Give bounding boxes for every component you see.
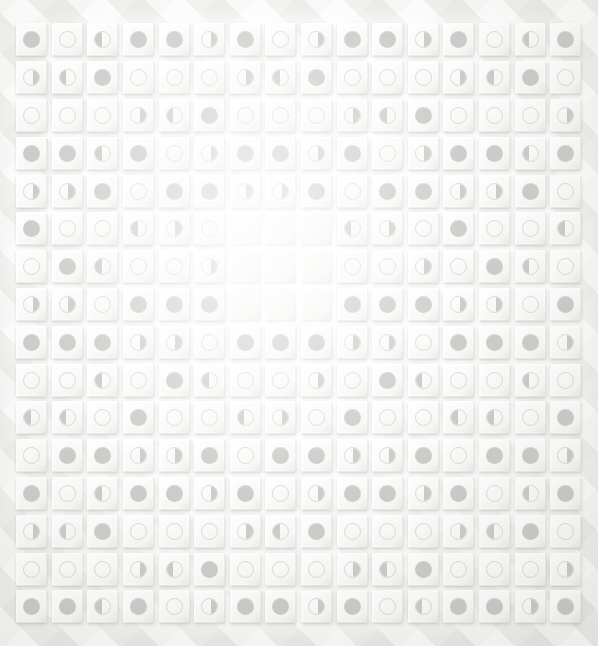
board-cell[interactable]	[512, 172, 548, 210]
board-cell-blank[interactable]	[299, 210, 335, 248]
board-cell[interactable]	[441, 172, 477, 210]
board-cell[interactable]	[85, 550, 121, 588]
board-cell[interactable]	[334, 512, 370, 550]
board-cell[interactable]	[406, 210, 442, 248]
board-cell[interactable]	[14, 323, 50, 361]
board-cell[interactable]	[406, 361, 442, 399]
board-cell[interactable]	[477, 248, 513, 286]
board-cell[interactable]	[512, 210, 548, 248]
board-cell[interactable]	[477, 323, 513, 361]
board-cell[interactable]	[299, 512, 335, 550]
board-cell[interactable]	[192, 361, 228, 399]
board-cell[interactable]	[156, 286, 192, 324]
board-cell[interactable]	[441, 21, 477, 59]
board-cell[interactable]	[156, 248, 192, 286]
board-cell[interactable]	[192, 210, 228, 248]
board-cell[interactable]	[441, 399, 477, 437]
board-cell[interactable]	[512, 475, 548, 513]
board-cell[interactable]	[14, 361, 50, 399]
board-cell[interactable]	[228, 97, 264, 135]
board-cell[interactable]	[50, 361, 86, 399]
board-cell[interactable]	[14, 97, 50, 135]
board-cell[interactable]	[441, 550, 477, 588]
board-cell[interactable]	[192, 286, 228, 324]
board-cell[interactable]	[334, 21, 370, 59]
board-cell[interactable]	[477, 97, 513, 135]
board-cell[interactable]	[14, 286, 50, 324]
board-cell[interactable]	[14, 172, 50, 210]
board-cell[interactable]	[156, 437, 192, 475]
board-cell[interactable]	[192, 134, 228, 172]
board-cell[interactable]	[14, 475, 50, 513]
board-cell[interactable]	[299, 550, 335, 588]
board-cell[interactable]	[228, 550, 264, 588]
board-cell[interactable]	[85, 361, 121, 399]
board-cell[interactable]	[85, 21, 121, 59]
board-cell[interactable]	[192, 172, 228, 210]
board-cell[interactable]	[263, 437, 299, 475]
board-cell[interactable]	[512, 97, 548, 135]
board-cell[interactable]	[299, 97, 335, 135]
board-cell[interactable]	[477, 134, 513, 172]
board-cell[interactable]	[156, 59, 192, 97]
board-cell[interactable]	[370, 97, 406, 135]
board-cell[interactable]	[50, 512, 86, 550]
board-cell[interactable]	[121, 97, 157, 135]
board-cell[interactable]	[121, 21, 157, 59]
board-cell[interactable]	[263, 361, 299, 399]
board-cell[interactable]	[370, 21, 406, 59]
board-cell-blank[interactable]	[228, 210, 264, 248]
board-cell[interactable]	[50, 588, 86, 626]
board-cell[interactable]	[548, 59, 584, 97]
board-cell[interactable]	[512, 399, 548, 437]
board-cell[interactable]	[477, 59, 513, 97]
board-cell[interactable]	[192, 588, 228, 626]
board-cell-blank[interactable]	[263, 286, 299, 324]
board-cell[interactable]	[406, 475, 442, 513]
board-cell[interactable]	[548, 97, 584, 135]
board-cell[interactable]	[548, 248, 584, 286]
board-cell[interactable]	[121, 248, 157, 286]
board-cell[interactable]	[121, 475, 157, 513]
board-cell[interactable]	[406, 437, 442, 475]
board-cell[interactable]	[334, 437, 370, 475]
board-cell[interactable]	[121, 361, 157, 399]
board-cell[interactable]	[477, 512, 513, 550]
board-cell[interactable]	[156, 361, 192, 399]
board-cell[interactable]	[370, 286, 406, 324]
board-cell[interactable]	[121, 437, 157, 475]
board-cell[interactable]	[548, 475, 584, 513]
board-cell[interactable]	[299, 134, 335, 172]
board-cell[interactable]	[512, 59, 548, 97]
board-cell[interactable]	[548, 323, 584, 361]
board-cell[interactable]	[441, 59, 477, 97]
board-cell[interactable]	[121, 210, 157, 248]
board-cell[interactable]	[85, 59, 121, 97]
board-cell[interactable]	[14, 134, 50, 172]
board-cell[interactable]	[370, 361, 406, 399]
board-cell-blank[interactable]	[299, 248, 335, 286]
board-cell[interactable]	[406, 21, 442, 59]
board-cell[interactable]	[512, 286, 548, 324]
board-cell[interactable]	[121, 512, 157, 550]
board-cell[interactable]	[548, 361, 584, 399]
board-cell[interactable]	[334, 248, 370, 286]
board-cell[interactable]	[228, 399, 264, 437]
board-cell[interactable]	[50, 286, 86, 324]
board-cell[interactable]	[228, 361, 264, 399]
board-cell[interactable]	[156, 512, 192, 550]
board-cell[interactable]	[548, 550, 584, 588]
board-cell-blank[interactable]	[263, 248, 299, 286]
board-cell[interactable]	[477, 361, 513, 399]
board-cell[interactable]	[263, 59, 299, 97]
board-cell[interactable]	[228, 59, 264, 97]
board-cell[interactable]	[406, 588, 442, 626]
board-cell[interactable]	[441, 512, 477, 550]
board-cell[interactable]	[406, 172, 442, 210]
board-cell[interactable]	[121, 172, 157, 210]
board-cell[interactable]	[228, 437, 264, 475]
board-cell[interactable]	[192, 437, 228, 475]
board-cell[interactable]	[406, 59, 442, 97]
board-cell[interactable]	[50, 399, 86, 437]
board-cell[interactable]	[192, 97, 228, 135]
